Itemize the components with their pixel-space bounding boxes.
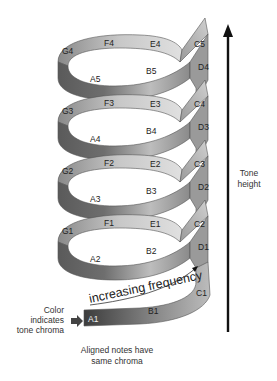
note-label: B5 <box>146 66 157 76</box>
note-label: D3 <box>198 122 209 132</box>
tone-height-label-line: height <box>237 179 261 189</box>
note-label: G1 <box>62 226 74 236</box>
note-label: C3 <box>194 159 205 169</box>
note-label: A1 <box>88 314 99 324</box>
chroma-label-line: Color <box>44 305 64 315</box>
aligned-caption-line: Aligned notes have <box>81 345 154 355</box>
aligned-caption: Aligned notes have same chroma <box>81 345 154 366</box>
chroma-label-line: indicates <box>30 315 64 325</box>
note-label: B3 <box>146 186 157 196</box>
note-label: A3 <box>90 194 101 204</box>
note-label: D1 <box>198 242 209 252</box>
tone-height-axis: Tone height <box>223 24 261 332</box>
chroma-annotation: Color indicates tone chroma <box>17 305 83 335</box>
note-label: D4 <box>198 62 209 72</box>
chroma-label-line: tone chroma <box>17 325 65 335</box>
note-label: F4 <box>104 38 114 48</box>
note-label: E1 <box>150 219 161 229</box>
note-label: F3 <box>104 98 114 108</box>
pitch-helix-diagram: G4 F4 E4 C5 D4 A5 B5 G3 F3 E3 C4 D3 A4 B… <box>0 0 277 381</box>
note-label: G3 <box>62 106 74 116</box>
note-label: F1 <box>104 218 114 228</box>
note-label: F2 <box>104 158 114 168</box>
note-label: C2 <box>194 219 205 229</box>
note-label: C5 <box>194 39 205 49</box>
note-label: E2 <box>150 159 161 169</box>
arrow-up-icon <box>223 24 233 37</box>
note-label: E4 <box>150 39 161 49</box>
note-label: G2 <box>62 166 74 176</box>
note-label: A2 <box>90 254 101 264</box>
note-label: A5 <box>90 74 101 84</box>
tone-height-label-line: Tone <box>240 168 259 178</box>
note-label: B2 <box>146 246 157 256</box>
helix-turn-4 <box>58 18 208 102</box>
aligned-caption-line: same chroma <box>91 356 143 366</box>
note-label: A4 <box>90 134 101 144</box>
chroma-pointer-arrow-icon <box>71 315 83 327</box>
note-label: C1 <box>196 288 207 298</box>
note-label: D2 <box>198 182 209 192</box>
note-label: G4 <box>62 46 74 56</box>
note-label: C4 <box>194 99 205 109</box>
note-label: B1 <box>148 306 159 316</box>
note-label: E3 <box>150 99 161 109</box>
note-label: B4 <box>146 126 157 136</box>
